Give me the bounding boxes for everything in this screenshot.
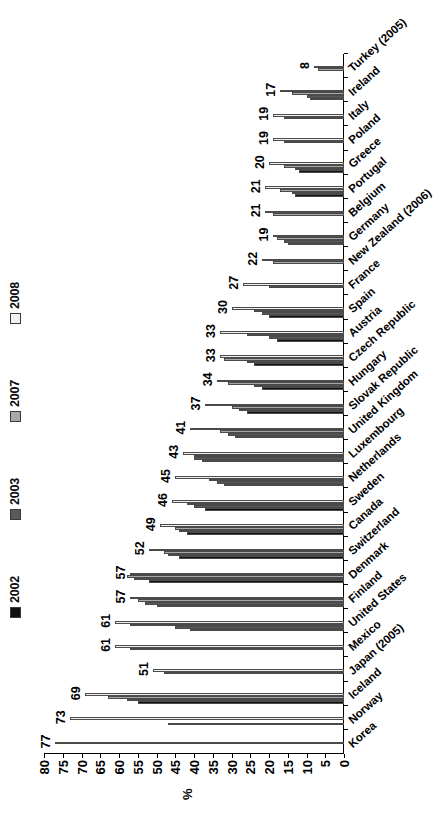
category-tick	[344, 729, 348, 730]
value-tick-label: 0	[337, 760, 352, 786]
category-tick	[344, 632, 348, 633]
legend-label: 2002	[8, 576, 22, 603]
bar-group: 20	[269, 152, 344, 173]
bar-value-label: 43	[167, 445, 181, 459]
plot-area: 80757065605550454035302520151050 7773695…	[44, 54, 344, 754]
bar-2008	[130, 597, 344, 600]
bar-value-label: 19	[257, 228, 271, 242]
bar-2007	[187, 503, 345, 506]
category-tick	[344, 463, 348, 464]
category-tick	[344, 681, 348, 682]
bar-2007	[228, 382, 344, 385]
bar-2007	[224, 358, 344, 361]
value-tick	[307, 754, 308, 758]
bar-2002	[224, 484, 344, 487]
bar-2007	[280, 189, 344, 192]
bar-2008	[172, 500, 345, 503]
bar-2008	[115, 621, 344, 624]
category-tick	[344, 101, 348, 102]
bar-2008	[149, 549, 344, 552]
value-tick	[213, 754, 214, 758]
value-tick-label: 15	[280, 760, 295, 786]
bar-2003	[168, 554, 344, 557]
value-tick-label: 75	[55, 760, 70, 786]
bar-2003	[127, 699, 345, 702]
bar-2003	[239, 409, 344, 412]
legend-item-2002: 2002	[8, 576, 22, 618]
bar-2007	[254, 310, 344, 313]
bar-2003	[292, 192, 345, 195]
bar-group: 57	[127, 562, 345, 583]
legend-label: 2008	[8, 282, 22, 309]
bar-2002	[157, 605, 345, 608]
value-tick	[119, 754, 120, 758]
bar-value-label: 49	[144, 517, 158, 531]
bar-2007	[220, 430, 344, 433]
bar-2008	[190, 428, 344, 431]
category-tick	[344, 294, 348, 295]
category-tick	[344, 705, 348, 706]
bar-value-label: 34	[201, 372, 215, 386]
legend-swatch-icon	[10, 411, 21, 422]
bar-value-label: 33	[204, 348, 218, 362]
legend-swatch-icon	[10, 607, 21, 618]
bar-2007	[292, 93, 345, 96]
bar-group: 43	[183, 441, 344, 462]
category-tick	[344, 319, 348, 320]
bar-2007	[269, 286, 344, 289]
bar-2002	[179, 556, 344, 559]
bar-group: 46	[172, 490, 345, 511]
bar-2007	[164, 551, 344, 554]
bar-value-label: 61	[99, 614, 113, 628]
category-label: Turkey (2005)	[346, 16, 408, 74]
bar-2008	[232, 307, 345, 310]
value-tick-label: 5	[318, 760, 333, 786]
bar-value-label: 77	[39, 734, 53, 748]
bar-2003	[194, 457, 344, 460]
bar-2008	[273, 235, 344, 238]
bar-2008	[85, 693, 344, 696]
value-tick	[194, 754, 195, 758]
bar-2003	[295, 168, 344, 171]
bar-2008	[175, 476, 344, 479]
bar-2002	[269, 315, 344, 318]
bar-group: 52	[149, 538, 344, 559]
legend-label: 2007	[8, 380, 22, 407]
value-tick	[175, 754, 176, 758]
legend-swatch-icon	[10, 313, 21, 324]
bar-2007	[138, 599, 344, 602]
bar-2003	[168, 723, 344, 726]
category-tick	[344, 367, 348, 368]
bar-2008	[70, 718, 344, 721]
bar-2002	[205, 508, 344, 511]
category-tick	[344, 174, 348, 175]
value-tick	[82, 754, 83, 758]
bar-group: 22	[262, 248, 345, 269]
value-tick	[100, 754, 101, 758]
bar-2008	[130, 573, 344, 576]
bar-2007	[130, 624, 344, 627]
category-tick	[344, 270, 348, 271]
bar-value-label: 8	[298, 62, 312, 69]
bar-2007	[232, 406, 345, 409]
bar-2008	[217, 380, 345, 383]
category-tick	[344, 343, 348, 344]
bar-2007	[284, 141, 344, 144]
bar-value-label: 57	[114, 566, 128, 580]
bar-2003	[307, 95, 345, 98]
value-tick	[325, 754, 326, 758]
value-tick-label: 55	[130, 760, 145, 786]
bar-2003	[145, 602, 344, 605]
legend-item-2008: 2008	[8, 282, 22, 324]
bar-2002	[299, 170, 344, 173]
bar-value-label: 19	[257, 131, 271, 145]
category-tick	[344, 125, 348, 126]
bar-group: 21	[265, 200, 344, 221]
value-tick	[288, 754, 289, 758]
bar-2002	[295, 194, 344, 197]
bar-2008	[314, 66, 344, 69]
bar-value-label: 37	[189, 397, 203, 411]
bar-group: 27	[243, 272, 344, 293]
bar-group: 73	[70, 707, 344, 728]
